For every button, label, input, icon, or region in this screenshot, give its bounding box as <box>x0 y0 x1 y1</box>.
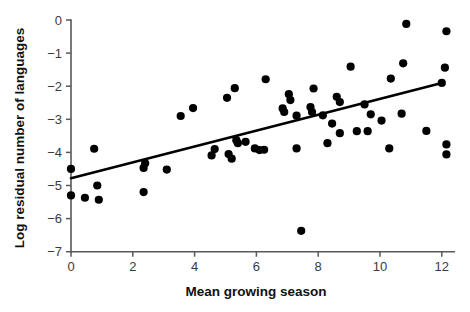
data-point <box>81 194 89 202</box>
data-point <box>442 27 450 35</box>
data-point <box>286 96 294 104</box>
data-point <box>377 117 385 125</box>
data-point <box>211 145 219 153</box>
data-point <box>309 84 317 92</box>
data-point <box>364 127 372 135</box>
y-tick-label: −3 <box>47 112 62 127</box>
y-tick-label: −2 <box>47 79 62 94</box>
scatter-plot-figure: 0−1−2−3−4−5−6−7024681012 Mean growing se… <box>0 0 470 312</box>
x-tick-label: 6 <box>253 259 260 274</box>
x-tick-label: 2 <box>129 259 136 274</box>
data-point <box>323 139 331 147</box>
data-point <box>93 181 101 189</box>
x-axis-title: Mean growing season <box>185 284 326 299</box>
regression-line <box>71 83 442 178</box>
data-point <box>260 146 268 154</box>
y-tick-label: −4 <box>47 145 62 160</box>
regression-fit-line <box>71 83 442 178</box>
data-point <box>367 110 375 118</box>
plot-canvas: 0−1−2−3−4−5−6−7024681012 Mean growing se… <box>0 0 470 312</box>
data-point <box>336 98 344 106</box>
x-tick-label: 8 <box>315 259 322 274</box>
data-point <box>387 74 395 82</box>
data-point <box>95 196 103 204</box>
data-point <box>308 108 316 116</box>
data-point <box>319 111 327 119</box>
data-point <box>141 159 149 167</box>
data-point <box>163 166 171 174</box>
data-point <box>353 127 361 135</box>
y-tick-label: −7 <box>47 244 62 259</box>
data-point <box>223 94 231 102</box>
data-point <box>90 145 98 153</box>
data-point <box>336 129 344 137</box>
data-points <box>67 20 451 235</box>
y-tick-label: −6 <box>47 211 62 226</box>
data-point <box>297 227 305 235</box>
axes <box>71 20 454 252</box>
data-point <box>292 144 300 152</box>
data-point <box>241 138 249 146</box>
data-point <box>398 110 406 118</box>
data-point <box>67 165 75 173</box>
data-point <box>228 155 236 163</box>
data-point <box>360 100 368 108</box>
x-tick-label: 0 <box>67 259 74 274</box>
y-tick-label: −1 <box>47 46 62 61</box>
data-point <box>385 144 393 152</box>
tick-marks <box>66 20 442 257</box>
data-point <box>280 108 288 116</box>
x-tick-label: 4 <box>191 259 198 274</box>
data-point <box>189 104 197 112</box>
y-tick-label: −5 <box>47 178 62 193</box>
data-point <box>140 188 148 196</box>
data-point <box>292 112 300 120</box>
x-tick-label: 10 <box>373 259 387 274</box>
data-point <box>441 64 449 72</box>
data-point <box>442 140 450 148</box>
data-point <box>442 150 450 158</box>
data-point <box>231 84 239 92</box>
data-point <box>438 79 446 87</box>
y-axis-title: Log residual number of languages <box>12 28 27 249</box>
data-point <box>402 20 410 28</box>
data-point <box>422 127 430 135</box>
data-point <box>328 120 336 128</box>
data-point <box>177 112 185 120</box>
data-point <box>262 75 270 83</box>
data-point <box>399 59 407 67</box>
y-tick-label: 0 <box>55 13 62 28</box>
data-point <box>67 191 75 199</box>
data-point <box>234 139 242 147</box>
data-point <box>347 63 355 71</box>
x-tick-label: 12 <box>435 259 449 274</box>
